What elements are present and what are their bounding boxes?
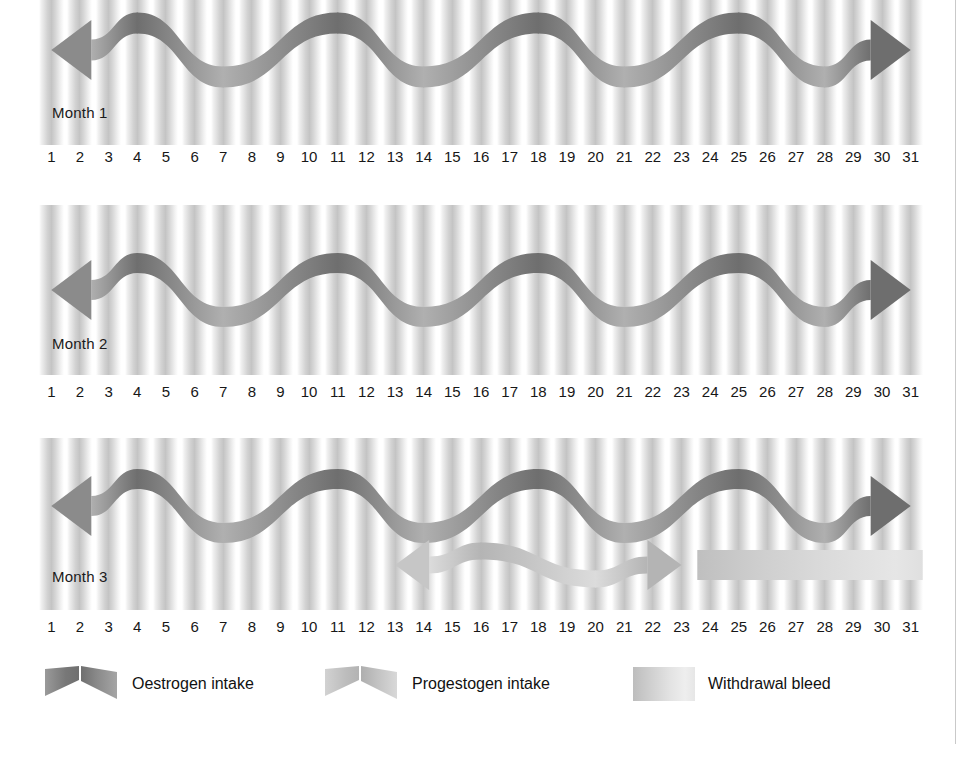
legend-label-withdrawal-bleed: Withdrawal bleed [708, 675, 831, 693]
calendar-stripe [96, 0, 121, 145]
calendar-stripe [784, 205, 809, 375]
day-number: 17 [497, 148, 523, 165]
day-number: 30 [869, 148, 895, 165]
day-number: 3 [96, 148, 122, 165]
day-number: 14 [411, 383, 437, 400]
day-number: 28 [812, 383, 838, 400]
legend-label-oestrogen: Oestrogen intake [132, 675, 254, 693]
calendar-stripe [211, 205, 236, 375]
calendar-stripe [526, 0, 551, 145]
day-number: 21 [611, 148, 637, 165]
calendar-stripe [841, 438, 866, 610]
legend-item-progestogen: Progestogen intake [325, 658, 550, 710]
calendar-stripe [383, 205, 408, 375]
day-number: 15 [439, 383, 465, 400]
day-number: 5 [153, 618, 179, 635]
calendar-stripes-1 [37, 0, 925, 145]
calendar-stripe [297, 205, 322, 375]
day-number: 2 [67, 148, 93, 165]
day-number: 6 [182, 148, 208, 165]
calendar-stripe [526, 205, 551, 375]
calendar-stripe [239, 205, 264, 375]
calendar-stripe [268, 438, 293, 610]
day-number: 18 [525, 383, 551, 400]
calendar-stripe [440, 0, 465, 145]
day-number: 24 [697, 618, 723, 635]
oestrogen-ribbon-icon [45, 666, 119, 702]
calendar-stripe [726, 438, 751, 610]
day-number: 21 [611, 383, 637, 400]
calendar-stripe [698, 0, 723, 145]
calendar-stripe [153, 438, 178, 610]
calendar-stripe [841, 0, 866, 145]
month-label-2: Month 2 [52, 335, 108, 352]
day-number: 3 [96, 618, 122, 635]
calendar-stripe [784, 438, 809, 610]
calendar-stripe [211, 438, 236, 610]
day-number: 7 [210, 383, 236, 400]
calendar-stripe [669, 0, 694, 145]
day-number: 21 [611, 618, 637, 635]
day-number: 11 [325, 148, 351, 165]
day-axis-2: 1234567891011121314151617181920212223242… [37, 383, 925, 405]
day-number: 20 [583, 383, 609, 400]
calendar-stripe [784, 0, 809, 145]
day-number: 19 [554, 148, 580, 165]
day-number: 5 [153, 148, 179, 165]
calendar-stripe [640, 438, 665, 610]
day-number: 13 [382, 383, 408, 400]
calendar-stripe [39, 0, 64, 145]
day-number: 25 [726, 618, 752, 635]
day-number: 31 [898, 148, 924, 165]
day-number: 4 [124, 618, 150, 635]
day-number: 31 [898, 618, 924, 635]
day-number: 23 [669, 148, 695, 165]
calendar-stripe [354, 0, 379, 145]
day-number: 10 [296, 383, 322, 400]
day-number: 29 [840, 383, 866, 400]
day-number: 3 [96, 383, 122, 400]
legend: Oestrogen intake [37, 658, 937, 710]
day-number: 18 [525, 618, 551, 635]
calendar-stripe [554, 205, 579, 375]
calendar-stripe [325, 0, 350, 145]
calendar-stripe [268, 0, 293, 145]
day-number: 12 [353, 148, 379, 165]
day-number: 20 [583, 148, 609, 165]
calendar-stripes-2 [37, 205, 925, 375]
day-number: 27 [783, 148, 809, 165]
day-number: 11 [325, 383, 351, 400]
calendar-stripe [640, 205, 665, 375]
calendar-stripe [640, 0, 665, 145]
day-number: 17 [497, 618, 523, 635]
day-number: 8 [239, 383, 265, 400]
day-axis-1: 1234567891011121314151617181920212223242… [37, 148, 925, 170]
progestogen-ribbon-icon [325, 666, 399, 702]
day-axis-3: 1234567891011121314151617181920212223242… [37, 618, 925, 640]
calendar-stripe [239, 0, 264, 145]
calendar-stripe [554, 0, 579, 145]
calendar-stripe [812, 205, 837, 375]
day-number: 23 [669, 618, 695, 635]
day-number: 15 [439, 618, 465, 635]
day-number: 29 [840, 148, 866, 165]
calendar-stripe [726, 0, 751, 145]
day-number: 29 [840, 618, 866, 635]
calendar-stripe [497, 438, 522, 610]
day-number: 4 [124, 383, 150, 400]
calendar-stripe [612, 438, 637, 610]
calendar-stripe [755, 0, 780, 145]
calendar-stripe [354, 205, 379, 375]
calendar-stripe [755, 438, 780, 610]
calendar-stripe [411, 0, 436, 145]
day-number: 16 [468, 383, 494, 400]
day-number: 24 [697, 383, 723, 400]
calendar-stripe [583, 205, 608, 375]
day-number: 14 [411, 148, 437, 165]
legend-item-oestrogen: Oestrogen intake [45, 658, 254, 710]
calendar-stripe [182, 205, 207, 375]
day-number: 19 [554, 618, 580, 635]
day-number: 12 [353, 383, 379, 400]
day-number: 9 [267, 618, 293, 635]
calendar-stripe [383, 438, 408, 610]
